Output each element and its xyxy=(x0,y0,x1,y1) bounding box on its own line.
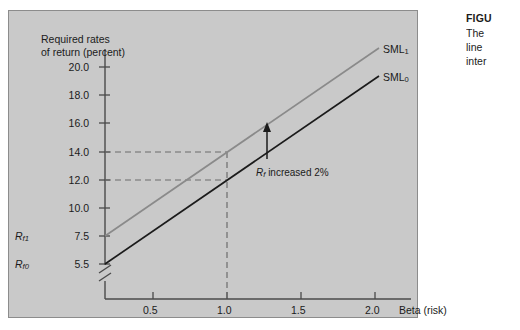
x-tick-label-1-0: 1.0 xyxy=(217,304,232,316)
y-axis-title-line2: of return (percent) xyxy=(41,46,125,58)
caption-line-3: inter xyxy=(466,55,520,69)
y-tick-label-7-5: 7.5 xyxy=(43,230,89,242)
sml1-base: SML xyxy=(383,43,405,55)
sml1-label: SML1 xyxy=(383,43,409,57)
y-tick-label-20: 20.0 xyxy=(43,61,89,73)
y-axis-title-line1: Required rates xyxy=(41,33,110,45)
sml1-subscript: 1 xyxy=(405,47,409,56)
sml0-line xyxy=(105,76,379,264)
x-tick-marks xyxy=(153,292,375,299)
rf0-subscript: f0 xyxy=(23,262,29,271)
rf1-base: R xyxy=(15,230,23,242)
x-tick-label-1-5: 1.5 xyxy=(291,304,306,316)
caption-line-2: line xyxy=(466,41,520,55)
x-tick-label-2-0: 2.0 xyxy=(365,304,380,316)
rf0-base: R xyxy=(15,258,23,270)
rf0-label: Rf0 xyxy=(15,258,29,272)
figure-caption: FIGU The line inter xyxy=(466,12,520,69)
reference-lines xyxy=(105,152,227,299)
x-tick-label-0-5: 0.5 xyxy=(143,304,158,316)
y-tick-label-14: 14.0 xyxy=(43,146,89,158)
chart-panel: Required rates of return (percent) 20.0 … xyxy=(8,10,418,318)
y-tick-label-10: 10.0 xyxy=(43,202,89,214)
y-tick-label-16: 16.0 xyxy=(43,117,89,129)
sml0-subscript: 0 xyxy=(405,75,409,84)
rf1-label: Rf1 xyxy=(15,230,29,244)
x-axis-title: Beta (risk) xyxy=(399,304,447,316)
y-axis-break-icon xyxy=(99,265,111,281)
figure-root: Required rates of return (percent) 20.0 … xyxy=(0,0,520,330)
y-tick-label-18: 18.0 xyxy=(43,89,89,101)
sml0-base: SML xyxy=(383,71,405,83)
caption-heading: FIGU xyxy=(466,12,520,24)
y-tick-label-5-5: 5.5 xyxy=(43,258,89,270)
sml1-line xyxy=(105,48,379,236)
rf-increase-annotation: Rf increased 2% xyxy=(256,167,329,180)
y-tick-label-12: 12.0 xyxy=(43,174,89,186)
rf1-subscript: f1 xyxy=(23,234,29,243)
annotation-rest: increased 2% xyxy=(265,167,328,178)
sml0-label: SML0 xyxy=(383,71,409,85)
caption-line-1: The xyxy=(466,27,520,41)
